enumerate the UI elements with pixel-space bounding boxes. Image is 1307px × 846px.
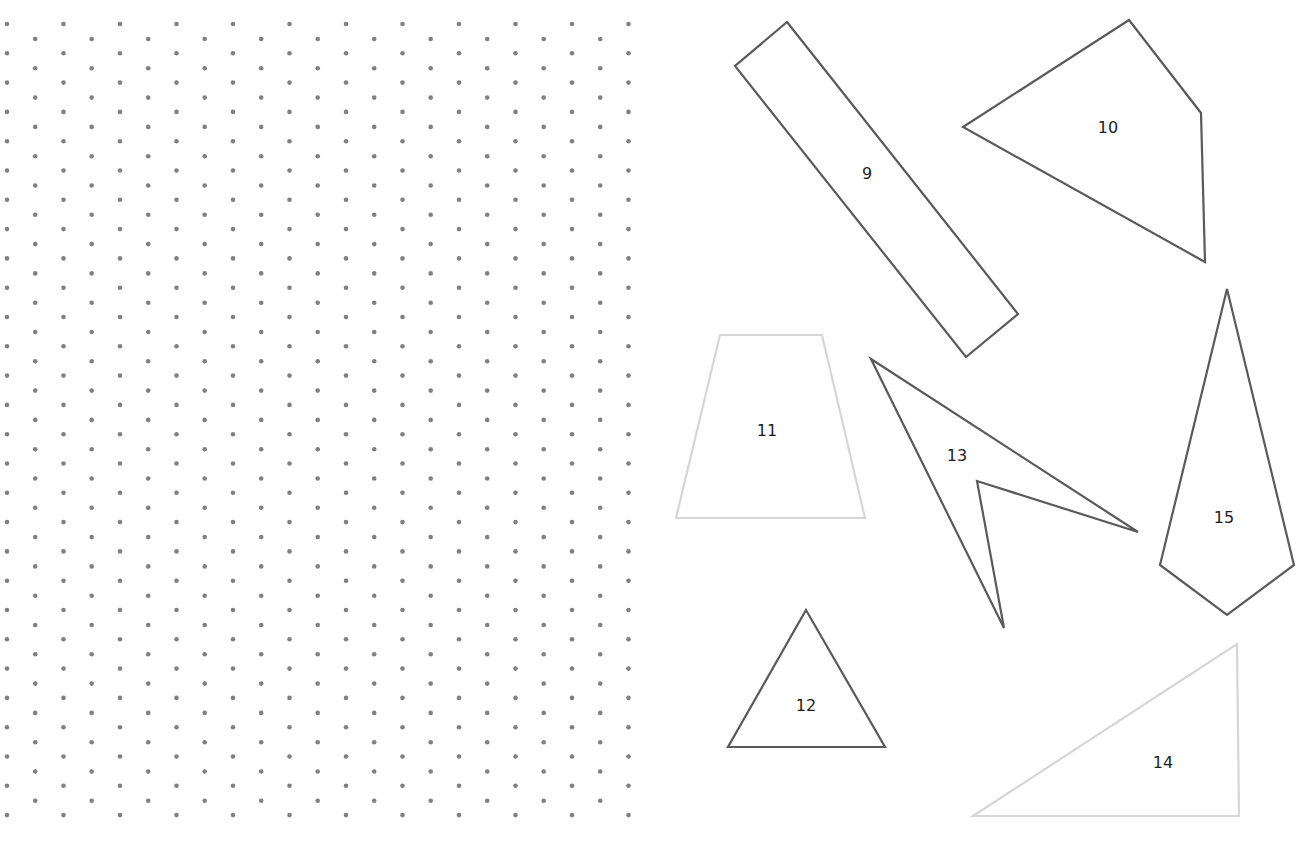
grid-dot bbox=[146, 447, 151, 452]
grid-dot bbox=[513, 520, 518, 525]
grid-dot bbox=[598, 183, 603, 188]
grid-dot bbox=[89, 769, 94, 774]
grid-dot bbox=[598, 769, 603, 774]
grid-dot bbox=[541, 330, 546, 335]
shape-15: 15 bbox=[1160, 289, 1294, 615]
grid-dot bbox=[202, 154, 207, 159]
grid-dot bbox=[259, 213, 264, 218]
grid-dot bbox=[570, 784, 575, 789]
grid-dot bbox=[344, 168, 349, 173]
grid-dot bbox=[541, 769, 546, 774]
grid-dot bbox=[202, 799, 207, 804]
grid-dot bbox=[598, 66, 603, 71]
grid-dot bbox=[541, 300, 546, 305]
grid-dot bbox=[33, 711, 38, 716]
grid-dot bbox=[626, 491, 631, 496]
grid-dot bbox=[33, 564, 38, 569]
grid-dot bbox=[513, 578, 518, 583]
grid-dot bbox=[457, 80, 462, 85]
grid-dot bbox=[287, 80, 292, 85]
shape-label: 13 bbox=[947, 446, 967, 465]
grid-dot bbox=[61, 344, 66, 349]
grid-dot bbox=[118, 608, 123, 613]
grid-dot bbox=[626, 813, 631, 818]
grid-dot bbox=[231, 666, 236, 671]
grid-dot bbox=[315, 154, 320, 159]
grid-dot bbox=[61, 315, 66, 320]
grid-dot bbox=[372, 37, 377, 42]
grid-dot bbox=[146, 242, 151, 247]
grid-dot bbox=[5, 666, 10, 671]
grid-dot bbox=[315, 300, 320, 305]
grid-dot bbox=[485, 799, 490, 804]
grid-dot bbox=[457, 520, 462, 525]
grid-dot bbox=[89, 125, 94, 130]
grid-dot bbox=[541, 213, 546, 218]
grid-dot bbox=[485, 681, 490, 686]
grid-dot bbox=[485, 388, 490, 393]
grid-dot bbox=[513, 491, 518, 496]
grid-dot bbox=[202, 769, 207, 774]
grid-dot bbox=[457, 784, 462, 789]
grid-dot bbox=[315, 125, 320, 130]
grid-dot bbox=[33, 740, 38, 745]
grid-dot bbox=[287, 22, 292, 27]
grid-dot bbox=[570, 227, 575, 232]
grid-dot bbox=[146, 125, 151, 130]
grid-dot bbox=[598, 799, 603, 804]
grid-dot bbox=[598, 125, 603, 130]
grid-dot bbox=[202, 359, 207, 364]
shape-13: 13 bbox=[871, 359, 1138, 628]
grid-dot bbox=[202, 388, 207, 393]
grid-dot bbox=[400, 549, 405, 554]
grid-dot bbox=[372, 799, 377, 804]
grid-dot bbox=[202, 564, 207, 569]
grid-dot bbox=[202, 183, 207, 188]
grid-dot bbox=[146, 37, 151, 42]
grid-dot bbox=[231, 168, 236, 173]
grid-dot bbox=[485, 271, 490, 276]
grid-dot bbox=[372, 476, 377, 481]
grid-dot bbox=[485, 300, 490, 305]
grid-dot bbox=[61, 285, 66, 290]
grid-dot bbox=[598, 37, 603, 42]
grid-dot bbox=[5, 813, 10, 818]
grid-dot bbox=[315, 681, 320, 686]
grid-dot bbox=[372, 769, 377, 774]
grid-dot bbox=[400, 432, 405, 437]
grid-dot bbox=[485, 183, 490, 188]
grid-dot bbox=[626, 608, 631, 613]
grid-dot bbox=[202, 476, 207, 481]
grid-dot bbox=[89, 271, 94, 276]
grid-dot bbox=[626, 520, 631, 525]
grid-dot bbox=[5, 725, 10, 730]
grid-dot bbox=[5, 285, 10, 290]
grid-dot bbox=[485, 476, 490, 481]
grid-dot bbox=[61, 256, 66, 261]
grid-dot bbox=[89, 418, 94, 423]
grid-dot bbox=[400, 784, 405, 789]
grid-dot bbox=[146, 535, 151, 540]
grid-dot bbox=[315, 711, 320, 716]
grid-dot bbox=[428, 125, 433, 130]
grid-dot bbox=[541, 183, 546, 188]
grid-dot bbox=[33, 213, 38, 218]
shape-label: 14 bbox=[1153, 753, 1173, 772]
grid-dot bbox=[259, 300, 264, 305]
grid-dot bbox=[598, 242, 603, 247]
grid-dot bbox=[174, 784, 179, 789]
grid-dot bbox=[259, 564, 264, 569]
grid-dot bbox=[598, 535, 603, 540]
grid-dot bbox=[118, 461, 123, 466]
grid-dot bbox=[513, 608, 518, 613]
grid-dot bbox=[174, 110, 179, 115]
grid-dot bbox=[174, 285, 179, 290]
grid-dot bbox=[513, 696, 518, 701]
grid-dot bbox=[344, 608, 349, 613]
grid-dot bbox=[344, 666, 349, 671]
grid-dot bbox=[513, 403, 518, 408]
grid-dot bbox=[287, 344, 292, 349]
grid-dot bbox=[146, 476, 151, 481]
grid-dot bbox=[570, 285, 575, 290]
grid-dot bbox=[372, 652, 377, 657]
